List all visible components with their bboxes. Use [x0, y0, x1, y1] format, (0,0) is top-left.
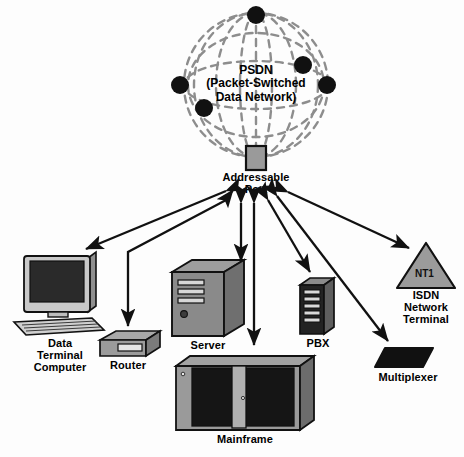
- network-diagram-canvas: PSDN (Packet-Switched Data Network) Addr…: [0, 0, 464, 457]
- mainframe-side: [300, 356, 314, 430]
- mainframe-indicator: [181, 372, 185, 376]
- mainframe-top: [176, 356, 314, 366]
- mainframe-label: Mainframe: [195, 434, 295, 446]
- mainframe-door-right: [246, 368, 294, 426]
- mainframe-icon[interactable]: [0, 0, 464, 457]
- mainframe-door-latch: [241, 396, 244, 399]
- mainframe-door-left: [192, 368, 232, 426]
